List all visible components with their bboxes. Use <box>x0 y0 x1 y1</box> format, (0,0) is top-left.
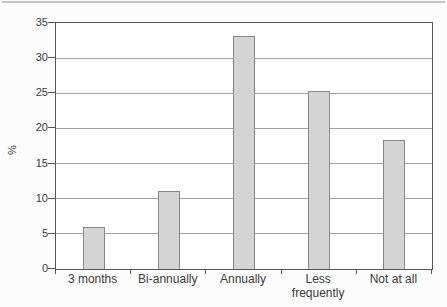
bar-not-at-all <box>383 140 405 269</box>
y-tick-mark-30 <box>48 57 55 58</box>
y-tick-mark-0 <box>48 268 55 269</box>
y-tick-label-15: 15 <box>20 156 48 170</box>
x-category-label-3-months: 3 months <box>55 272 130 286</box>
y-tick-mark-5 <box>48 233 55 234</box>
bar-annually <box>233 36 255 269</box>
y-tick-mark-35 <box>48 22 55 23</box>
bar-bi-annually <box>158 191 180 269</box>
y-tick-label-10: 10 <box>20 191 48 205</box>
y-tick-label-20: 20 <box>20 120 48 134</box>
x-category-label-less-frequently: Less frequently <box>281 272 356 286</box>
bar-3-months <box>83 227 105 269</box>
y-tick-mark-25 <box>48 92 55 93</box>
x-category-label-annually: Annually <box>205 272 280 286</box>
y-tick-label-25: 25 <box>20 85 48 99</box>
y-tick-mark-10 <box>48 198 55 199</box>
x-category-label-bi-annually: Bi-annually <box>130 272 205 286</box>
page: % 05101520253035 3 monthsBi-annuallyAnnu… <box>0 0 447 307</box>
y-tick-label-30: 30 <box>20 50 48 64</box>
y-tick-label-35: 35 <box>20 15 48 29</box>
y-tick-label-0: 0 <box>20 261 48 275</box>
bar-chart: % 05101520253035 3 monthsBi-annuallyAnnu… <box>0 0 447 307</box>
plot-area <box>55 22 433 270</box>
y-tick-mark-20 <box>48 127 55 128</box>
y-tick-label-5: 5 <box>20 226 48 240</box>
bar-less-frequently <box>308 91 330 269</box>
y-tick-mark-15 <box>48 163 55 164</box>
x-tick-mark-5 <box>431 269 432 274</box>
y-axis-label: % <box>5 143 19 157</box>
x-category-label-not-at-all: Not at all <box>356 272 431 286</box>
